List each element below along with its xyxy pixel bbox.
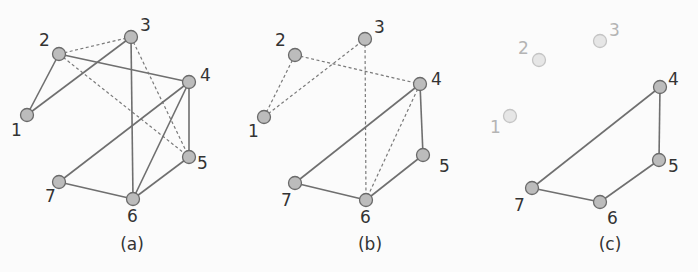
node-label: 2: [275, 30, 286, 50]
node-2: [533, 54, 546, 67]
node-6: [360, 194, 373, 207]
edge-5-6: [133, 157, 189, 199]
node-6: [127, 193, 140, 206]
panel-c: 1234567(c): [490, 20, 679, 254]
node-1: [21, 109, 34, 122]
edge-1-2: [27, 54, 59, 115]
panel-b: 1234567(b): [248, 17, 450, 254]
node-label: 2: [39, 30, 50, 50]
node-4: [183, 76, 196, 89]
node-label: 1: [248, 121, 259, 141]
node-4: [414, 78, 427, 91]
edge-1-3: [264, 39, 365, 117]
panel-caption: (a): [120, 234, 144, 254]
node-3: [359, 33, 372, 46]
edge-4-5: [659, 87, 660, 160]
edge-4-6: [366, 84, 420, 200]
node-label: 7: [281, 190, 292, 210]
node-label: 1: [490, 117, 501, 137]
edge-3-6: [131, 37, 133, 199]
node-label: 6: [127, 206, 138, 226]
node-3: [594, 35, 607, 48]
node-label: 5: [439, 156, 450, 176]
node-5: [183, 151, 196, 164]
node-2: [289, 49, 302, 62]
panel-a: 1234567(a): [11, 15, 211, 254]
node-7: [289, 177, 302, 190]
node-2: [53, 48, 66, 61]
edge-4-5: [420, 84, 423, 155]
node-label: 2: [518, 38, 529, 58]
node-label: 7: [514, 195, 525, 215]
edge-2-4: [59, 54, 189, 82]
edge-6-7: [532, 188, 600, 202]
node-5: [653, 154, 666, 167]
edge-4-6: [133, 82, 189, 199]
node-label: 5: [668, 156, 679, 176]
node-label: 1: [11, 120, 22, 140]
node-label: 4: [200, 65, 211, 85]
node-label: 3: [374, 17, 385, 37]
graph-figure: 1234567(a) 1234567(b) 1234567(c): [0, 0, 698, 272]
node-label: 7: [45, 186, 56, 206]
node-5: [417, 149, 430, 162]
edge-3-6: [365, 39, 366, 200]
node-label: 4: [668, 69, 679, 89]
node-4: [654, 81, 667, 94]
node-label: 6: [360, 207, 371, 227]
edge-6-7: [59, 182, 133, 199]
edge-5-6: [600, 160, 659, 202]
edge-2-5: [59, 54, 189, 157]
node-7: [526, 182, 539, 195]
node-label: 3: [609, 20, 620, 40]
node-label: 3: [140, 15, 151, 35]
node-6: [594, 196, 607, 209]
panel-caption: (b): [358, 234, 382, 254]
panel-caption: (c): [599, 234, 622, 254]
edge-3-5: [131, 37, 189, 157]
edge-6-7: [295, 183, 366, 200]
node-label: 4: [431, 69, 442, 89]
node-label: 5: [197, 153, 208, 173]
edge-5-6: [366, 155, 423, 200]
node-1: [258, 111, 271, 124]
edge-2-4: [295, 55, 420, 84]
node-1: [504, 110, 517, 123]
edge-4-7: [295, 84, 420, 183]
edge-1-2: [264, 55, 295, 117]
node-3: [125, 31, 138, 44]
edge-4-7: [59, 82, 189, 182]
node-label: 6: [607, 208, 618, 228]
